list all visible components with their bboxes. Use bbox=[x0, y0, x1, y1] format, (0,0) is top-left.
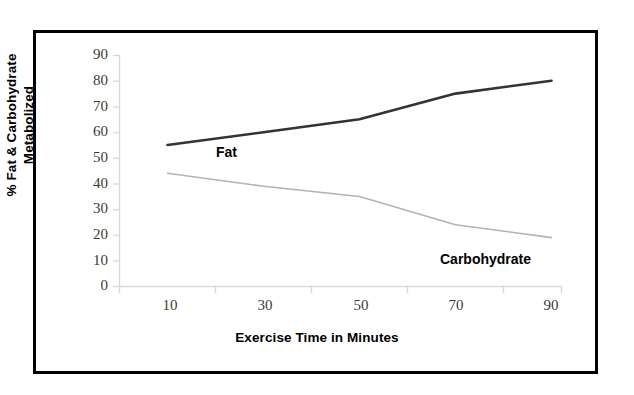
y-tick-label: 60 bbox=[74, 123, 108, 140]
y-tick-label: 80 bbox=[74, 72, 108, 89]
y-axis-title-line-1: % Fat & Carbohydrate bbox=[3, 53, 20, 196]
y-axis-ticks bbox=[113, 56, 119, 287]
series-label-carbohydrate: Carbohydrate bbox=[440, 251, 531, 267]
series-label-fat: Fat bbox=[216, 144, 237, 160]
y-axis-title-line-2: Metabolized bbox=[20, 53, 37, 196]
y-tick-label: 30 bbox=[74, 200, 108, 217]
y-tick-label: 50 bbox=[74, 149, 108, 166]
x-tick-label: 10 bbox=[150, 297, 190, 314]
y-axis-title: % Fat & Carbohydrate Metabolized bbox=[0, 0, 40, 250]
series-line-carbohydrate bbox=[168, 173, 552, 237]
y-tick-label: 40 bbox=[74, 175, 108, 192]
x-tick-label: 70 bbox=[436, 297, 476, 314]
x-axis-title: Exercise Time in Minutes bbox=[0, 330, 634, 345]
y-tick-label: 70 bbox=[74, 98, 108, 115]
y-tick-label: 10 bbox=[74, 252, 108, 269]
y-tick-label: 0 bbox=[74, 277, 108, 294]
series-line-fat bbox=[168, 81, 552, 145]
y-tick-label: 20 bbox=[74, 226, 108, 243]
x-tick-label: 30 bbox=[245, 297, 285, 314]
x-tick-label: 90 bbox=[531, 297, 571, 314]
x-tick-label: 50 bbox=[341, 297, 381, 314]
y-tick-label: 90 bbox=[74, 46, 108, 63]
